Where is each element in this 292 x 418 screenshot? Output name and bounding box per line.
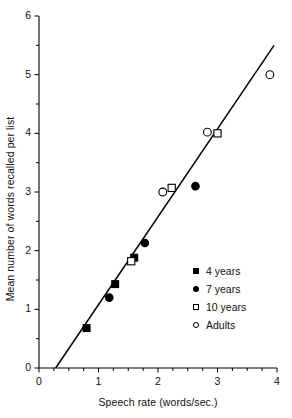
x-tick-label: 0 xyxy=(31,375,47,387)
y-axis-ticks xyxy=(35,16,40,368)
chart-figure: Mean number of words recalled per list S… xyxy=(0,0,292,418)
y-tick-label: 0 xyxy=(17,361,31,373)
legend-item-label: 7 years xyxy=(203,283,240,295)
y-tick-label: 4 xyxy=(17,126,31,138)
filled-circle-icon xyxy=(189,286,203,293)
data-point xyxy=(83,324,91,332)
legend-item: 7 years xyxy=(189,280,246,298)
data-point xyxy=(214,130,221,137)
y-tick-label: 6 xyxy=(17,9,31,21)
data-point xyxy=(128,258,135,265)
x-axis-ticks xyxy=(39,368,277,373)
x-axis-title: Speech rate (words/sec.) xyxy=(39,396,277,408)
data-point xyxy=(111,280,119,288)
data-point xyxy=(141,239,150,248)
legend-item-label: Adults xyxy=(203,319,235,331)
open-circle-icon xyxy=(189,322,203,329)
x-tick-label: 3 xyxy=(210,375,226,387)
legend-item-label: 4 years xyxy=(203,265,240,277)
data-point xyxy=(191,182,200,191)
filled-square-icon xyxy=(189,268,203,274)
legend-item-label: 10 years xyxy=(203,301,246,313)
chart-legend: 4 years 7 years 10 years Adults xyxy=(189,262,246,334)
data-point xyxy=(168,184,175,191)
data-point xyxy=(105,293,114,302)
legend-item: Adults xyxy=(189,316,246,334)
x-tick-label: 1 xyxy=(91,375,107,387)
legend-item: 4 years xyxy=(189,262,246,280)
y-tick-label: 2 xyxy=(17,244,31,256)
x-tick-label: 2 xyxy=(150,375,166,387)
plot-canvas xyxy=(0,0,292,418)
x-tick-label: 4 xyxy=(269,375,285,387)
data-point xyxy=(266,71,274,79)
legend-item: 10 years xyxy=(189,298,246,316)
open-square-icon xyxy=(189,304,203,310)
y-tick-label: 3 xyxy=(17,185,31,197)
data-point xyxy=(203,128,211,136)
y-tick-label: 1 xyxy=(17,302,31,314)
data-point xyxy=(159,188,167,196)
y-tick-label: 5 xyxy=(17,68,31,80)
